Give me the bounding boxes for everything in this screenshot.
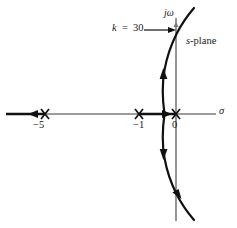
locus-branch-lower	[163, 114, 194, 220]
root-locus-figure: k = 30 jω s-plane σ −5 −1 0	[0, 0, 237, 228]
tick-label-minus-five: −5	[33, 120, 44, 131]
gain-value: 30	[133, 22, 144, 33]
imaginary-axis-tick	[173, 22, 178, 27]
imaginary-axis-label: jω	[164, 8, 174, 18]
s-plane-suffix: -plane	[190, 35, 216, 46]
gain-symbol: k	[112, 22, 117, 33]
s-plane-label: s-plane	[186, 36, 216, 47]
gain-annotation-label: k = 30	[112, 23, 144, 34]
gain-equals: =	[119, 22, 130, 33]
locus-arrow-lower	[160, 149, 168, 160]
tick-label-zero: 0	[172, 120, 177, 131]
real-axis-label: σ	[219, 106, 224, 117]
tick-label-minus-one: −1	[133, 120, 144, 131]
real-axis-arrow-left	[28, 110, 38, 118]
locus-arrow-upper	[160, 68, 168, 79]
locus-branch-upper	[163, 8, 194, 114]
gain-annotation-arrowhead	[168, 27, 176, 33]
